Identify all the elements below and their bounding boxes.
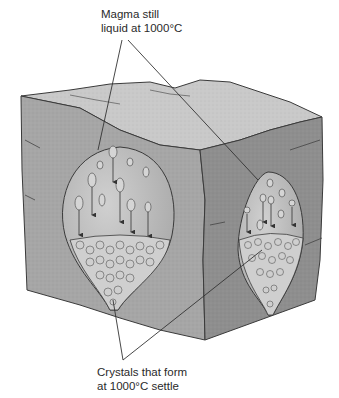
label-crystals-settle-line2: at 1000°C settle [97, 379, 187, 393]
label-magma-liquid-line1: Magma still [101, 7, 182, 21]
label-crystals-settle: Crystals that form at 1000°C settle [97, 365, 187, 393]
label-crystals-settle-line1: Crystals that form [97, 365, 187, 379]
rock-block-diagram [0, 0, 339, 398]
label-magma-liquid-line2: liquid at 1000°C [101, 21, 182, 35]
label-magma-liquid: Magma still liquid at 1000°C [101, 7, 182, 35]
